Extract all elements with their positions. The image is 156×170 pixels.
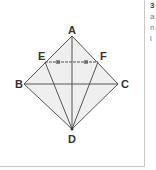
side-text-line: l: [150, 33, 156, 44]
point-D-dot: [71, 128, 74, 131]
label-A: A: [68, 24, 76, 36]
label-E: E: [38, 50, 45, 62]
label-B: B: [15, 78, 23, 90]
cropped-side-text: 3 a n l: [150, 0, 156, 44]
label-D: D: [68, 133, 76, 145]
side-text-line: 3: [150, 0, 156, 11]
geometry-diagram: A B C D E F: [0, 0, 145, 167]
side-text-line: a: [150, 11, 156, 22]
label-C: C: [121, 78, 129, 90]
side-text-line: n: [150, 22, 156, 33]
label-F: F: [100, 50, 107, 62]
